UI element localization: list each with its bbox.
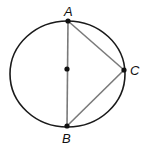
label-c: C [130, 63, 140, 78]
segment-bc [67, 70, 124, 126]
point-a [65, 18, 70, 23]
center-point [64, 66, 69, 71]
label-b: B [62, 131, 71, 146]
point-c [121, 67, 126, 72]
label-a: A [63, 4, 73, 19]
segment-ab [67, 21, 68, 126]
circle-triangle-diagram: A B C [0, 0, 144, 149]
point-b [64, 123, 69, 128]
